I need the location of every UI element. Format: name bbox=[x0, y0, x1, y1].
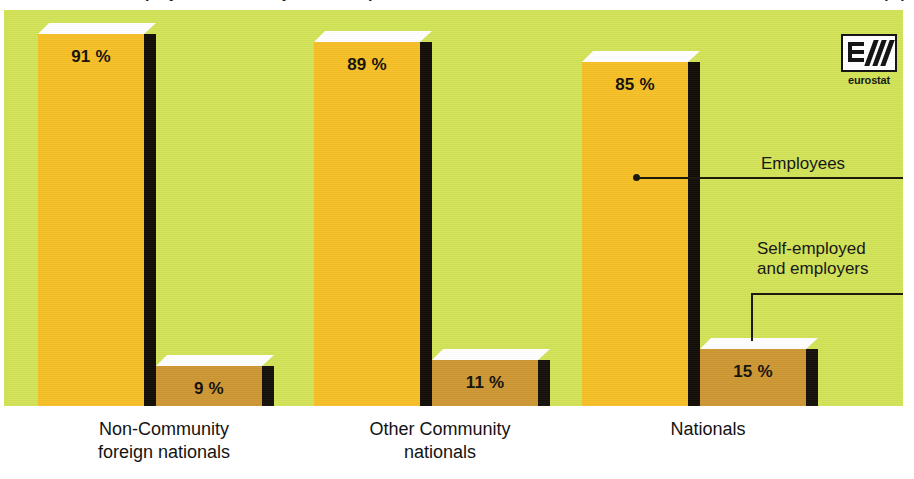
bar-front-face bbox=[38, 34, 144, 406]
bar-front-face bbox=[314, 42, 420, 406]
bar-side-face bbox=[262, 366, 274, 406]
bar-side-face bbox=[806, 349, 818, 406]
bar-side-face bbox=[688, 62, 700, 406]
bar-top-face bbox=[156, 355, 274, 366]
bar-selfemployed-nationals: 15 % bbox=[700, 338, 818, 406]
bar-top-face bbox=[700, 338, 818, 349]
bar-value-label: 11 % bbox=[432, 373, 538, 393]
bar-value-label: 91 % bbox=[38, 47, 144, 67]
bar-employees-other-community: 89 % bbox=[314, 31, 432, 406]
bar-employees-nationals: 85 % bbox=[582, 51, 700, 406]
selfemployed-leader-line-vertical bbox=[751, 293, 753, 341]
bar-value-label: 85 % bbox=[582, 75, 688, 95]
employees-leader-line bbox=[637, 177, 903, 179]
bar-selfemployed-other-community: 11 % bbox=[432, 349, 550, 406]
logo-e-bar-top bbox=[848, 42, 864, 46]
page-title: Employment status by citizenship bbox=[120, 0, 378, 2]
bar-side-face bbox=[144, 34, 156, 406]
bar-front-face bbox=[582, 62, 688, 406]
callout-employees: Employees bbox=[761, 154, 845, 174]
plot-area: 91 % 9 % 89 % 11 % 85 % bbox=[4, 10, 903, 406]
category-label-nationals: Nationals bbox=[588, 418, 828, 441]
bar-employees-non-community: 91 % bbox=[38, 23, 156, 406]
bar-value-label: 9 % bbox=[156, 379, 262, 399]
bar-selfemployed-non-community: 9 % bbox=[156, 355, 274, 406]
bar-side-face bbox=[420, 42, 432, 406]
bar-top-face bbox=[314, 31, 432, 42]
eurostat-mark-icon bbox=[841, 34, 897, 72]
eurostat-wordmark: eurostat bbox=[840, 74, 898, 86]
chart-title-strip: Employment status by citizenship (%) bbox=[0, 0, 914, 4]
category-label-non-community: Non-Community foreign nationals bbox=[44, 418, 284, 464]
bar-value-label: 15 % bbox=[700, 362, 806, 382]
bar-side-face bbox=[538, 360, 550, 406]
callout-self-employed: Self-employed and employers bbox=[757, 239, 869, 280]
bar-top-face bbox=[38, 23, 156, 34]
eurostat-logo: eurostat bbox=[840, 34, 898, 86]
selfemployed-leader-line-horizontal bbox=[751, 293, 903, 295]
bar-top-face bbox=[432, 349, 550, 360]
category-label-other-community: Other Community nationals bbox=[320, 418, 560, 464]
bar-top-face bbox=[582, 51, 700, 62]
logo-e-bar-bottom bbox=[848, 58, 864, 62]
chart-screenshot: Employment status by citizenship (%) 91 … bbox=[0, 0, 914, 479]
logo-e-bar-middle bbox=[848, 50, 864, 54]
unit-label: (%) bbox=[883, 0, 906, 1]
bar-value-label: 89 % bbox=[314, 55, 420, 75]
